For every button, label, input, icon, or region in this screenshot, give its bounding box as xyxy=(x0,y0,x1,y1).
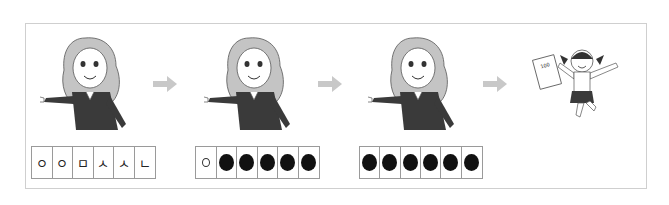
teacher-figure-2 xyxy=(204,30,314,140)
letter-cell: ㅅ xyxy=(94,147,115,178)
right-arrow-icon xyxy=(318,76,342,92)
hidden-dot-marker xyxy=(382,154,397,171)
letter-cell xyxy=(217,147,238,178)
hidden-ring-marker xyxy=(202,158,210,167)
hidden-dot-marker xyxy=(443,154,458,171)
letter-cell xyxy=(441,147,461,178)
letter-box-3 xyxy=(359,146,483,179)
letter-cell xyxy=(237,147,258,178)
hidden-dot-marker xyxy=(260,154,275,171)
teacher-figure-3 xyxy=(368,30,478,140)
letter-cell xyxy=(380,147,400,178)
teacher-figure-1 xyxy=(40,30,150,140)
hidden-dot-marker xyxy=(219,154,234,171)
letter-cell xyxy=(462,147,482,178)
letter-box-2 xyxy=(195,146,320,179)
hidden-dot-marker xyxy=(280,154,295,171)
hidden-dot-marker xyxy=(362,154,377,171)
hidden-dot-marker xyxy=(464,154,479,171)
letter-cell xyxy=(299,147,320,178)
right-arrow-icon xyxy=(483,76,507,92)
letter-cell xyxy=(196,147,217,178)
hidden-dot-marker xyxy=(301,154,316,171)
letter-cell: ㅁ xyxy=(73,147,94,178)
right-arrow-icon xyxy=(153,76,177,92)
letter-box-1: ㅇ ㅇ ㅁ ㅅ ㅅ ㄴ xyxy=(31,146,156,179)
letter-cell: ㅇ xyxy=(53,147,74,178)
hidden-dot-marker xyxy=(423,154,438,171)
letter-cell: ㅇ xyxy=(32,147,53,178)
letter-cell xyxy=(258,147,279,178)
letter-cell xyxy=(401,147,421,178)
letter-cell xyxy=(421,147,441,178)
letter-cell xyxy=(360,147,380,178)
letter-cell xyxy=(278,147,299,178)
letter-cell: ㄴ xyxy=(135,147,156,178)
hidden-dot-marker xyxy=(239,154,254,171)
girl-jumping-figure: 100 xyxy=(530,45,640,125)
hidden-dot-marker xyxy=(403,154,418,171)
letter-cell: ㅅ xyxy=(114,147,135,178)
